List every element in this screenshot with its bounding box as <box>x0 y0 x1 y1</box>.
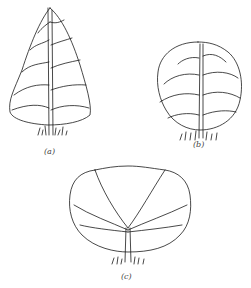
grass-b <box>180 131 217 140</box>
label-c: (c) <box>121 272 132 281</box>
tree-b-rounded <box>157 42 241 140</box>
label-b: (b) <box>193 140 204 149</box>
grass-a <box>38 126 67 135</box>
crown-outline-a <box>10 8 91 125</box>
grass-c <box>112 257 144 264</box>
trunk-c <box>125 228 131 262</box>
trunk-b <box>199 44 203 138</box>
trunk-a <box>48 8 53 135</box>
branches-c <box>74 170 187 232</box>
tree-c-spreading <box>70 166 191 264</box>
tree-a-conical <box>10 8 91 135</box>
label-a: (a) <box>44 147 55 156</box>
tree-forms-diagram <box>0 0 251 288</box>
